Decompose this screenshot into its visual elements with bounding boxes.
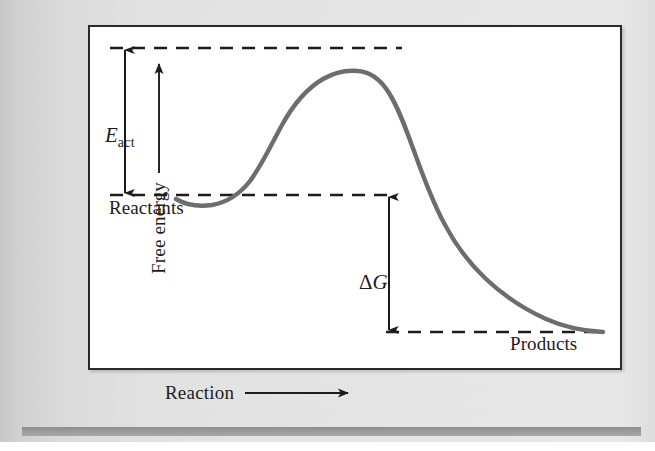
bottom-rule-bar bbox=[22, 427, 641, 436]
x-axis-right-arrow-icon bbox=[244, 386, 356, 400]
delta-symbol: Δ bbox=[359, 270, 373, 294]
activation-energy-subscript: act bbox=[118, 135, 135, 150]
activation-energy-symbol: E bbox=[105, 123, 118, 147]
reactants-label: Reactants bbox=[109, 197, 184, 219]
delta-g-label: ΔG bbox=[359, 270, 388, 295]
plot-panel: Reactants Products Eact ΔG Free energy bbox=[88, 25, 622, 370]
gibbs-g-symbol: G bbox=[373, 270, 388, 294]
x-axis-label-text: Reaction bbox=[165, 382, 234, 404]
products-label: Products bbox=[510, 333, 577, 355]
x-axis-label: Reaction bbox=[165, 382, 356, 404]
activation-energy-label: Eact bbox=[105, 123, 135, 151]
reaction-energy-diagram-figure: Reactants Products Eact ΔG Free energy R… bbox=[0, 0, 655, 451]
